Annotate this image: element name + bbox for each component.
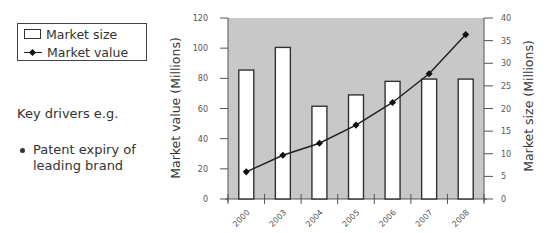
bar-market-size [349,95,364,199]
y-tick-label-right: 5 [501,172,506,181]
y-tick-label-right: 30 [501,59,511,68]
y-tick-label-right: 0 [501,195,506,204]
x-tick-label: 2007 [414,208,435,229]
y-tick-label-right: 20 [501,105,511,114]
y-tick-label-left: 60 [198,105,208,114]
y-tick-label-right: 10 [501,150,511,159]
y-tick-label-right: 25 [501,82,511,91]
x-tick-label: 2005 [341,208,362,229]
x-tick-label: 2008 [450,208,471,229]
bar-market-size [422,79,437,199]
x-tick-label: 2003 [268,208,289,229]
y-tick-label-right: 35 [501,37,511,46]
x-tick-label: 2004 [304,208,325,229]
bar-market-size [275,47,290,199]
bar-market-size [239,70,254,199]
y-tick-label-left: 80 [198,74,208,83]
y-tick-label-right: 40 [501,14,511,23]
combo-chart: 0204060801001200510152025303540200020032… [0,0,550,233]
y-tick-label-left: 40 [198,135,208,144]
y-tick-label-right: 15 [501,127,511,136]
y-tick-label-left: 100 [193,44,208,53]
bar-market-size [458,79,473,199]
y-tick-label-left: 0 [203,195,208,204]
y-tick-label-left: 20 [198,165,208,174]
x-tick-label: 2006 [377,208,398,229]
x-tick-label: 2000 [231,208,252,229]
bar-market-size [312,106,327,199]
y-tick-label-left: 120 [193,14,208,23]
